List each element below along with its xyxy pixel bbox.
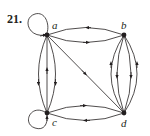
edge-b-a: [47, 28, 124, 36]
edge-c-d: [47, 106, 124, 114]
edge-b-d-inner-left: [117, 35, 124, 113]
edge-a-c-left: [39, 35, 48, 113]
edge-d-b-outer-right: [124, 35, 137, 113]
vertex-label-b: b: [121, 19, 127, 31]
edge-a-c-right: [47, 35, 56, 113]
vertex-c: [45, 111, 50, 116]
edge-a-a-loop: [28, 14, 48, 36]
vertex-label-a: a: [52, 19, 58, 31]
vertex-d: [122, 111, 127, 116]
edge-a-b: [47, 35, 124, 43]
vertex-a: [45, 33, 50, 38]
directed-graph: a b c d: [0, 0, 150, 136]
vertex-label-c: c: [52, 116, 57, 128]
vertex-label-d: d: [121, 117, 127, 129]
edge-d-c: [47, 113, 124, 121]
edge-b-d-inner-right: [124, 35, 131, 113]
edge-c-c-loop: [28, 110, 47, 129]
edge-a-d-arrow: [82, 71, 86, 75]
vertex-b: [122, 33, 127, 38]
